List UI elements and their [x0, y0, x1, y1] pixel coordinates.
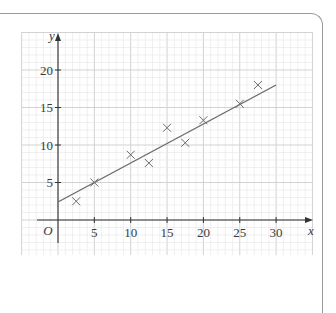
y-tick-label: 20 — [40, 63, 53, 78]
x-tick-label: 30 — [270, 225, 283, 240]
y-axis-arrow-icon — [55, 33, 61, 41]
y-tick-label: 15 — [40, 100, 53, 115]
x-axis-label: x — [307, 223, 314, 238]
x-tick-label: 25 — [233, 225, 246, 240]
y-tick-label: 10 — [40, 138, 53, 153]
data-point-marker — [72, 197, 80, 205]
y-tick-label: 5 — [47, 175, 54, 190]
y-axis-label: y — [47, 28, 55, 43]
x-tick-label: 5 — [91, 225, 98, 240]
x-tick-label: 20 — [197, 225, 210, 240]
origin-label: O — [43, 223, 53, 238]
data-point-marker — [181, 139, 189, 147]
x-tick-label: 15 — [161, 225, 174, 240]
x-tick-label: 10 — [124, 225, 137, 240]
